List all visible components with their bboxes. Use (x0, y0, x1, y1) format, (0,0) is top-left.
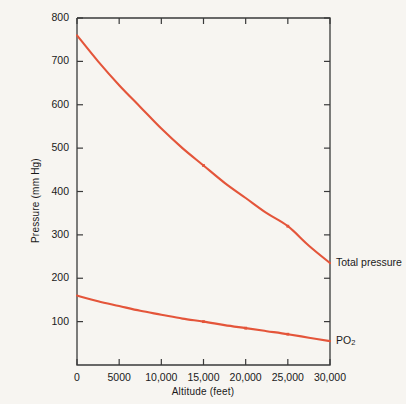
y-axis-title: Pressure (mm Hg) (30, 158, 41, 243)
series-label-po2: PO2 (336, 334, 355, 347)
y-tick-label: 500 (37, 141, 69, 153)
x-tick-label: 30,000 (300, 371, 360, 383)
y-tick-label: 300 (37, 228, 69, 240)
axes-frame (77, 18, 330, 365)
y-tick-label: 400 (37, 185, 69, 197)
y-tick-label: 600 (37, 98, 69, 110)
y-tick-label: 800 (37, 11, 69, 23)
data-point-markers (202, 164, 289, 336)
series-label-total-pressure: Total pressure (336, 256, 402, 268)
y-tick-label: 100 (37, 315, 69, 327)
altitude-pressure-chart: 100200300400500600700800 0500010,00015,0… (0, 0, 406, 404)
series-lines (77, 35, 330, 341)
x-axis-title: Altitude (feet) (0, 386, 406, 397)
y-tick-label: 700 (37, 54, 69, 66)
y-tick-label: 200 (37, 271, 69, 283)
tick-marks (77, 18, 330, 365)
